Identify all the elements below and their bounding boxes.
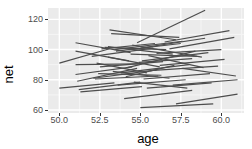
- x-tick-label: 60.0: [201, 116, 241, 125]
- x-tick-label: 52.5: [80, 116, 120, 125]
- x-tick-label: 55.0: [120, 116, 160, 125]
- plot-lines-svg: [48, 8, 244, 113]
- y-axis-title: net: [0, 0, 16, 149]
- trajectory-line: [176, 94, 238, 104]
- y-tick-label: 100: [15, 45, 43, 54]
- y-tick-label: 120: [15, 15, 43, 24]
- y-tick-label: 60: [15, 105, 43, 114]
- x-tick-label: 57.5: [161, 116, 201, 125]
- chart-root: net age 50.052.555.057.560.06080100120: [0, 0, 252, 149]
- x-axis-title: age: [48, 130, 248, 146]
- trajectory-line: [59, 83, 114, 88]
- trajectory-line: [137, 10, 205, 42]
- y-tick-label: 80: [15, 75, 43, 84]
- plot-panel: [48, 8, 244, 113]
- trajectory-line: [80, 87, 142, 92]
- series-line-segments: [59, 10, 237, 107]
- x-tick-label: 50.0: [39, 116, 79, 125]
- trajectory-line: [140, 104, 213, 108]
